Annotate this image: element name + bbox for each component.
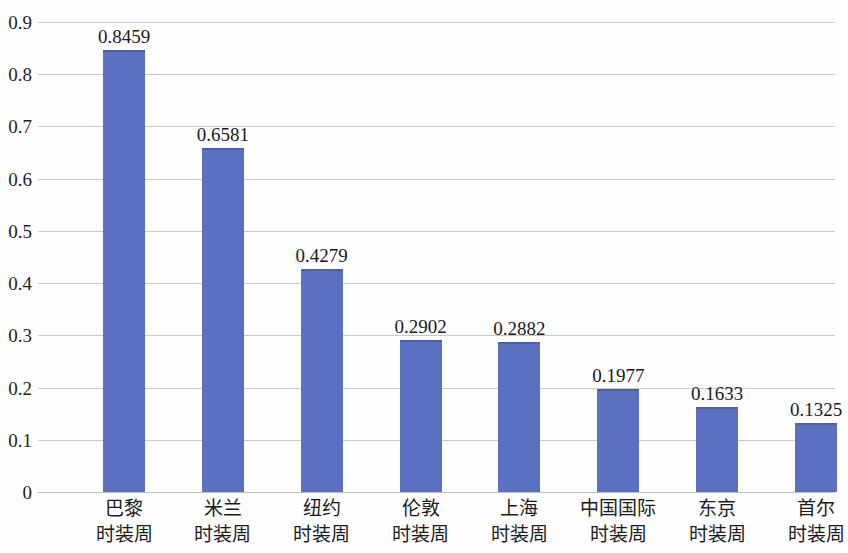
x-axis-tick-label-line: 首尔 [761, 496, 848, 522]
bar [597, 389, 639, 492]
bar [400, 340, 442, 492]
bar-value-label: 0.1977 [575, 366, 661, 385]
y-axis-tick-label: 0.3 [0, 326, 32, 345]
x-axis-tick-label: 中国国际时装周 [563, 496, 673, 548]
plot-area: 0.84590.65810.42790.29020.28820.19770.16… [38, 22, 835, 492]
y-axis-tick-label: 0.1 [0, 431, 32, 450]
y-axis-tick-label: 0.5 [0, 222, 32, 241]
y-axis-tick-label: 0.2 [0, 379, 32, 398]
bar-group: 0.8459 [103, 22, 145, 492]
x-axis-tick-label: 东京时装周 [662, 496, 772, 548]
bar-value-label: 0.4279 [279, 246, 365, 265]
bar-value-label: 0.6581 [180, 125, 266, 144]
x-axis-tick-label-line: 时装周 [366, 522, 476, 548]
bar [202, 148, 244, 492]
bar-group: 0.2882 [498, 22, 540, 492]
bar-group: 0.1325 [795, 22, 837, 492]
x-axis-tick-label-line: 时装周 [267, 522, 377, 548]
x-axis-tick-label: 伦敦时装周 [366, 496, 476, 548]
axis-baseline [38, 492, 835, 493]
x-axis-tick-label: 上海时装周 [464, 496, 574, 548]
x-axis-tick-label-line: 时装周 [464, 522, 574, 548]
x-axis-tick-label-line: 上海 [464, 496, 574, 522]
bar [301, 269, 343, 492]
x-axis-tick-label: 巴黎时装周 [69, 496, 179, 548]
y-axis-tick-label: 0.9 [0, 13, 32, 32]
x-axis-tick-label: 纽约时装周 [267, 496, 377, 548]
bar-group: 0.1977 [597, 22, 639, 492]
bar-group: 0.1633 [696, 22, 738, 492]
bar-group: 0.4279 [301, 22, 343, 492]
bar-group: 0.2902 [400, 22, 442, 492]
y-axis-tick-label: 0.7 [0, 117, 32, 136]
x-axis-tick-label-line: 巴黎 [69, 496, 179, 522]
y-axis: 0.90.80.70.60.50.40.30.20.10 [0, 0, 32, 553]
bar-value-label: 0.1325 [773, 400, 848, 419]
x-axis-tick-label-line: 时装周 [662, 522, 772, 548]
x-axis-tick-label-line: 伦敦 [366, 496, 476, 522]
bar [498, 342, 540, 493]
x-axis-tick-label-line: 时装周 [168, 522, 278, 548]
y-axis-tick-label: 0.6 [0, 170, 32, 189]
y-axis-tick-label: 0.8 [0, 65, 32, 84]
bar [103, 50, 145, 492]
y-axis-tick-label: 0 [0, 483, 32, 502]
bar-group: 0.6581 [202, 22, 244, 492]
x-axis-tick-label-line: 时装周 [69, 522, 179, 548]
x-axis: 巴黎时装周米兰时装周纽约时装周伦敦时装周上海时装周中国国际时装周东京时装周首尔时… [38, 496, 835, 553]
bar [795, 423, 837, 492]
x-axis-tick-label-line: 东京 [662, 496, 772, 522]
y-axis-tick-label: 0.4 [0, 274, 32, 293]
bar-value-label: 0.8459 [81, 27, 167, 46]
bar-value-label: 0.1633 [674, 384, 760, 403]
bar-value-label: 0.2902 [378, 317, 464, 336]
x-axis-tick-label-line: 时装周 [563, 522, 673, 548]
x-axis-tick-label-line: 纽约 [267, 496, 377, 522]
x-axis-tick-label-line: 米兰 [168, 496, 278, 522]
x-axis-tick-label-line: 中国国际 [563, 496, 673, 522]
x-axis-tick-label-line: 时装周 [761, 522, 848, 548]
x-axis-tick-label: 米兰时装周 [168, 496, 278, 548]
bar [696, 407, 738, 492]
x-axis-tick-label: 首尔时装周 [761, 496, 848, 548]
bar-value-label: 0.2882 [476, 319, 562, 338]
